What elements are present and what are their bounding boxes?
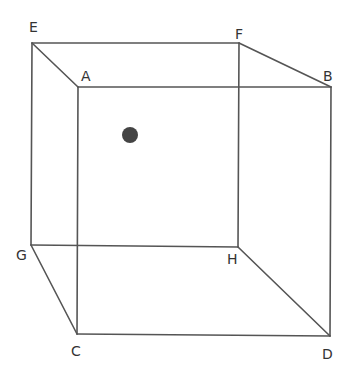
vertex-label-c: C bbox=[71, 343, 81, 359]
edge-hd bbox=[238, 247, 330, 336]
vertex-label-d: D bbox=[322, 346, 333, 362]
edge-ea bbox=[32, 43, 78, 87]
cube-diagram: ABCDEFGH bbox=[0, 0, 351, 370]
cube-edges bbox=[31, 43, 331, 336]
point-dot bbox=[122, 127, 138, 143]
edge-bd bbox=[330, 87, 331, 336]
edge-hg bbox=[31, 245, 238, 247]
edge-ge bbox=[31, 43, 32, 245]
edge-dc bbox=[77, 334, 330, 336]
vertex-label-a: A bbox=[81, 68, 91, 84]
edge-fb bbox=[239, 43, 331, 87]
edge-ca bbox=[77, 87, 78, 334]
edge-gc bbox=[31, 245, 77, 334]
vertex-label-h: H bbox=[227, 251, 238, 267]
vertex-label-e: E bbox=[29, 19, 38, 35]
vertex-labels: ABCDEFGH bbox=[16, 19, 333, 362]
edge-fh bbox=[238, 43, 239, 247]
vertex-label-b: B bbox=[323, 68, 333, 84]
vertex-label-f: F bbox=[235, 26, 243, 42]
vertex-label-g: G bbox=[16, 247, 27, 263]
